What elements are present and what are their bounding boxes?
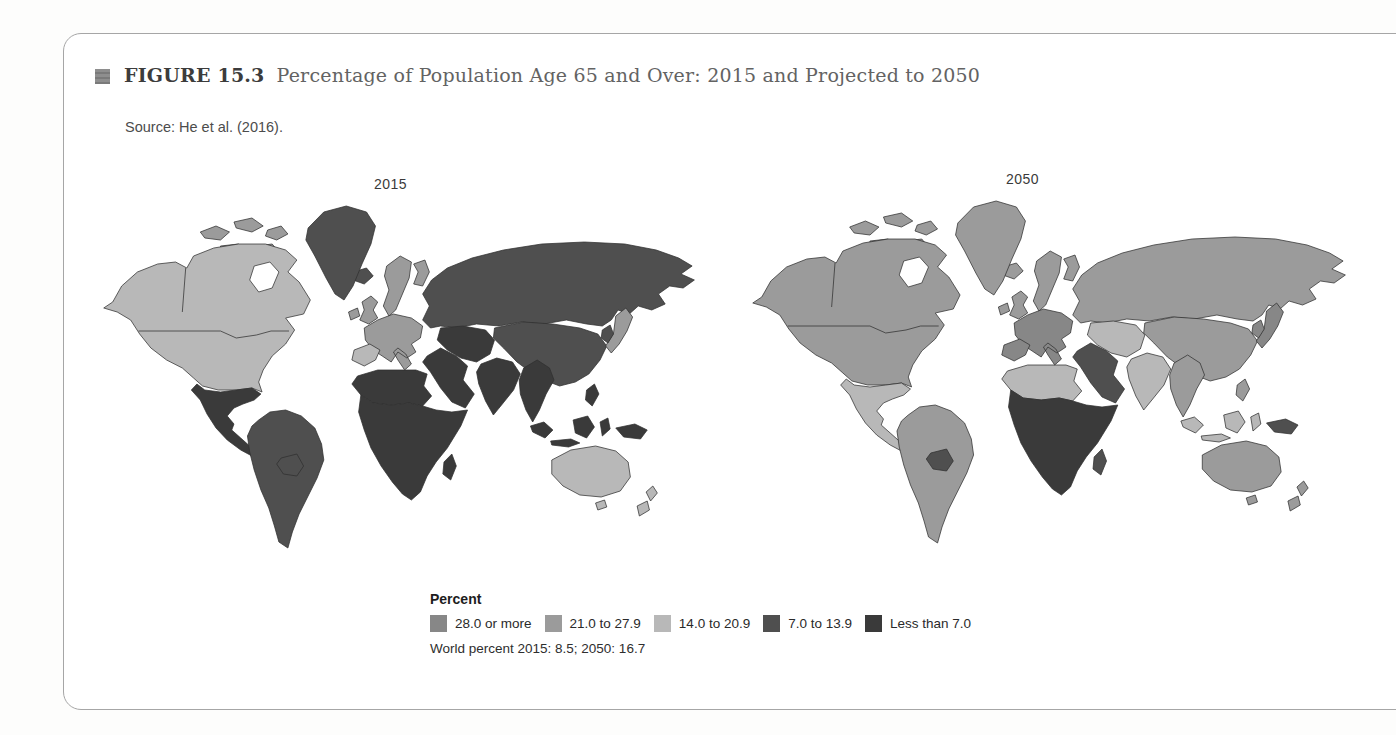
legend-item: 7.0 to 13.9 xyxy=(763,615,852,632)
legend-item: 28.0 or more xyxy=(430,615,532,632)
region-uk-ireland xyxy=(349,296,378,324)
legend-item: 14.0 to 20.9 xyxy=(654,615,750,632)
region-iberia xyxy=(352,344,380,366)
region-africa-sub xyxy=(1009,390,1118,495)
world-map-2015 xyxy=(88,198,700,556)
region-russia xyxy=(1073,237,1346,323)
region-africa-sub xyxy=(359,395,468,500)
region-scandinavia xyxy=(1033,251,1079,311)
region-india xyxy=(477,358,521,415)
region-madagascar xyxy=(443,454,456,480)
legend-swatch xyxy=(865,615,882,632)
region-south-america xyxy=(897,405,974,543)
legend-label: 28.0 or more xyxy=(455,616,532,631)
legend-label: 14.0 to 20.9 xyxy=(679,616,750,631)
region-madagascar xyxy=(1093,449,1107,475)
legend-row: 28.0 or more 21.0 to 27.9 14.0 to 20.9 7… xyxy=(430,615,971,632)
world-percent-note: World percent 2015: 8.5; 2050: 16.7 xyxy=(430,641,971,656)
region-usa-canada xyxy=(104,244,311,392)
map-year-label-2015: 2015 xyxy=(374,176,407,192)
figure-header: FIGURE 15.3 Percentage of Population Age… xyxy=(95,64,980,86)
legend-item: Less than 7.0 xyxy=(865,615,971,632)
figure-title: Percentage of Population Age 65 and Over… xyxy=(277,64,981,86)
legend-swatch xyxy=(763,615,780,632)
region-indonesia xyxy=(530,416,610,447)
region-south-america xyxy=(247,410,323,548)
region-india xyxy=(1127,353,1171,410)
legend-label: Less than 7.0 xyxy=(890,616,971,631)
source-text: Source: He et al. (2016). xyxy=(125,119,283,135)
region-greenland xyxy=(306,206,376,300)
region-new-zealand xyxy=(1288,481,1308,511)
region-iberia xyxy=(1002,339,1030,361)
region-usa-canada xyxy=(753,239,960,387)
figure-label: FIGURE 15.3 xyxy=(124,64,265,86)
map-year-label-2050: 2050 xyxy=(1006,171,1039,187)
legend-swatch xyxy=(545,615,562,632)
region-scandinavia xyxy=(383,256,429,316)
legend-item: 21.0 to 27.9 xyxy=(545,615,641,632)
legend-swatch xyxy=(430,615,447,632)
region-australia xyxy=(552,446,631,510)
region-greenland xyxy=(956,201,1026,295)
region-australia xyxy=(1202,441,1281,505)
legend-label: 21.0 to 27.9 xyxy=(570,616,641,631)
legend: Percent 28.0 or more 21.0 to 27.9 14.0 t… xyxy=(430,591,971,656)
region-new-zealand xyxy=(637,486,657,516)
legend-label: 7.0 to 13.9 xyxy=(788,616,852,631)
region-papua-new-guinea xyxy=(616,424,647,439)
region-uk-ireland xyxy=(998,291,1027,319)
legend-swatch xyxy=(654,615,671,632)
world-map-2050 xyxy=(737,193,1351,551)
region-papua-new-guinea xyxy=(1267,419,1299,434)
region-russia xyxy=(423,242,695,328)
scanned-page: FIGURE 15.3 Percentage of Population Age… xyxy=(0,0,1396,735)
legend-heading: Percent xyxy=(430,591,971,607)
figure-bullet-icon xyxy=(95,69,110,84)
region-indonesia xyxy=(1181,411,1261,442)
